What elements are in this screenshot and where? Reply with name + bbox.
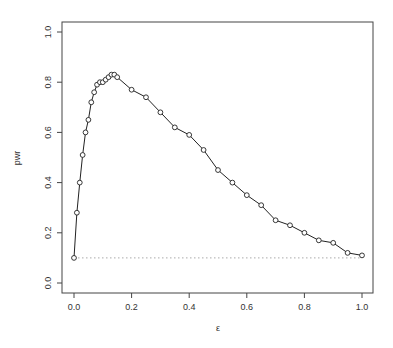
plot-frame (62, 22, 373, 293)
x-tick-label: 0.2 (125, 302, 138, 312)
x-axis: 0.00.20.40.60.81.0 (68, 293, 369, 312)
x-tick-label: 1.0 (356, 302, 369, 312)
data-point (331, 240, 336, 245)
y-tick-label: 0.2 (43, 227, 53, 240)
data-point (158, 110, 163, 115)
data-point (115, 75, 120, 80)
data-point (77, 180, 82, 185)
y-tick-label: 0.4 (43, 176, 53, 189)
data-point (316, 238, 321, 243)
data-point (273, 218, 278, 223)
data-markers (72, 72, 365, 260)
y-tick-label: 1.0 (43, 26, 53, 39)
data-point (302, 230, 307, 235)
y-tick-label: 0.6 (43, 126, 53, 139)
data-point (74, 210, 79, 215)
data-point (80, 153, 85, 158)
x-tick-label: 0.6 (241, 302, 254, 312)
data-point (259, 203, 264, 208)
data-point (83, 130, 88, 135)
y-axis-label: pwr (12, 151, 22, 166)
y-axis: 0.00.20.40.60.81.0 (43, 26, 62, 290)
data-point (360, 253, 365, 258)
x-tick-label: 0.0 (68, 302, 81, 312)
data-point (230, 180, 235, 185)
data-point (144, 95, 149, 100)
x-axis-label: ε (216, 323, 220, 333)
series-line (74, 75, 362, 258)
y-tick-label: 0.0 (43, 277, 53, 290)
data-point (72, 256, 77, 261)
y-tick-label: 0.8 (43, 76, 53, 89)
data-point (187, 133, 192, 138)
x-tick-label: 0.4 (183, 302, 196, 312)
data-point (89, 100, 94, 105)
data-point (201, 148, 206, 153)
data-point (86, 117, 91, 122)
power-curve-chart: 0.00.20.40.60.81.0 0.00.20.40.60.81.0 ε … (0, 0, 393, 348)
data-point (216, 168, 221, 173)
data-point (172, 125, 177, 130)
data-point (288, 223, 293, 228)
data-point (345, 250, 350, 255)
x-tick-label: 0.8 (298, 302, 311, 312)
data-point (129, 87, 134, 92)
data-point (244, 193, 249, 198)
data-point (92, 90, 97, 95)
